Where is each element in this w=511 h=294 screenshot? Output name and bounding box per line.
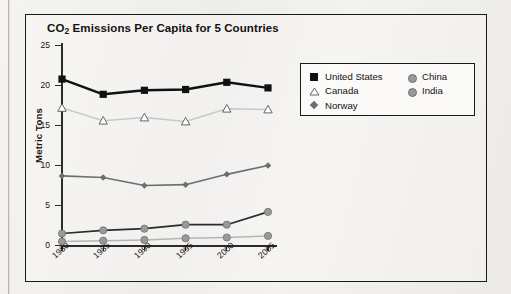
legend-label: India [422, 85, 443, 96]
legend-label: Canada [325, 85, 359, 96]
legend-marker [405, 70, 418, 83]
data-point [141, 225, 148, 232]
data-point [58, 238, 65, 245]
series-india [58, 232, 271, 245]
legend-marker-triangle-icon [308, 85, 321, 98]
data-point [264, 232, 271, 239]
legend-item-china[interactable]: China [405, 69, 447, 84]
data-point [100, 227, 107, 234]
legend-marker [308, 70, 321, 83]
legend-item-india[interactable]: India [405, 84, 447, 99]
data-point [182, 86, 189, 93]
legend-column-left: United StatesCanadaNorway [308, 69, 383, 113]
data-point [100, 91, 107, 98]
legend-label: United States [325, 71, 383, 82]
series-line [62, 79, 268, 94]
data-point [264, 84, 271, 91]
data-point [141, 182, 148, 189]
legend-item-norway[interactable]: Norway [308, 98, 383, 113]
legend-label: China [422, 71, 447, 82]
legend-marker-square-icon [310, 73, 318, 81]
series-line [62, 212, 268, 234]
data-point [100, 237, 107, 244]
data-point [100, 174, 107, 181]
data-point [141, 87, 148, 94]
series-line [62, 236, 268, 242]
legend-marker-diamond-icon [309, 101, 317, 109]
series-canada [58, 104, 272, 125]
legend-item-canada[interactable]: Canada [308, 84, 383, 99]
data-point [182, 221, 189, 228]
data-point [223, 221, 230, 228]
data-point [182, 235, 189, 242]
chart-legend: United StatesCanadaNorway ChinaIndia [300, 63, 475, 116]
series-china [58, 208, 271, 237]
data-point [59, 173, 66, 180]
series-line [62, 108, 268, 122]
legend-label: Norway [325, 100, 358, 111]
legend-marker [308, 99, 321, 112]
legend-marker [308, 84, 321, 97]
legend-marker [405, 84, 418, 97]
series-norway [59, 162, 272, 189]
data-point [264, 208, 271, 215]
legend-marker-circle-icon [408, 74, 417, 83]
series-line [62, 166, 268, 186]
data-point [224, 171, 231, 178]
data-point [58, 104, 66, 112]
data-point [223, 234, 230, 241]
series-united-states [58, 76, 271, 98]
data-point [58, 76, 65, 83]
chart-series-layer [0, 0, 511, 294]
data-point [58, 230, 65, 237]
data-point [182, 181, 189, 188]
legend-marker-circle-icon [408, 88, 417, 97]
data-point [141, 236, 148, 243]
data-point [223, 79, 230, 86]
legend-item-united-states[interactable]: United States [308, 69, 383, 84]
legend-column-right: ChinaIndia [405, 69, 447, 98]
data-point [265, 162, 272, 169]
